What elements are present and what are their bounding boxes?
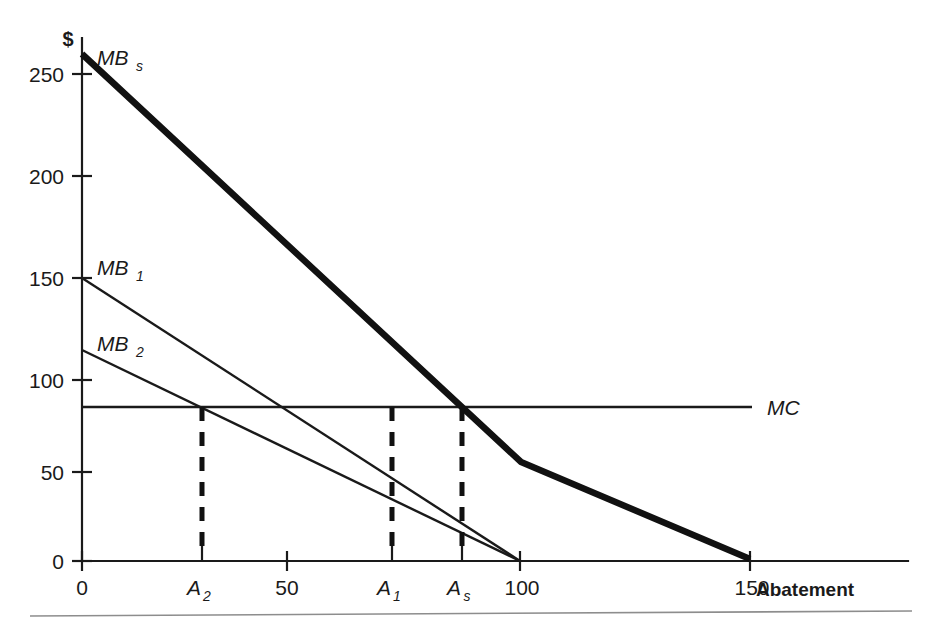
curve-label-mb1: MB [97, 256, 129, 279]
curve-label-mb2: MB [97, 332, 129, 355]
x-tick-label-As-subscript: s [464, 588, 471, 604]
x-tick-label-0: 0 [76, 576, 88, 599]
figure-container: 250 200 150 100 50 0 $ 0 A 2 50 [0, 0, 930, 628]
x-tick-label-100: 100 [504, 576, 539, 599]
abatement-marginal-benefit-cost-chart: 250 200 150 100 50 0 $ 0 A 2 50 [0, 0, 930, 628]
x-tick-label-As-group: A s [445, 576, 471, 604]
curve-label-mbs-group: MB s [97, 46, 143, 74]
x-tick-label-A2: A [185, 576, 201, 599]
x-tick-label-A2-group: A 2 [185, 576, 211, 604]
x-tick-label-50: 50 [275, 576, 298, 599]
y-tick-label-50: 50 [41, 461, 64, 484]
curve-mbs [82, 54, 750, 559]
x-axis-title: Abatement [756, 579, 855, 600]
dashed-drop-lines [202, 407, 462, 557]
x-axis-tick-labels: 0 A 2 50 A 1 A s 100 150 [76, 576, 769, 604]
curve-label-mb1-group: MB 1 [97, 256, 144, 284]
x-tick-label-A1-subscript: 1 [393, 588, 401, 604]
x-tick-label-A1: A [375, 576, 391, 599]
curve-label-mb2-group: MB 2 [97, 332, 144, 360]
y-tick-label-100: 100 [29, 369, 64, 392]
curve-mb2 [82, 350, 520, 561]
footer-divider [30, 611, 912, 616]
curve-label-mb1-subscript: 1 [136, 268, 144, 284]
curve-label-mb2-subscript: 2 [135, 344, 144, 360]
curve-label-mc: MC [767, 396, 800, 419]
y-tick-label-150: 150 [29, 267, 64, 290]
y-axis-tick-labels: 250 200 150 100 50 0 [29, 63, 64, 573]
y-tick-label-0: 0 [52, 550, 64, 573]
y-axis-title-dollar: $ [62, 28, 73, 50]
x-axis-ticks [82, 546, 750, 571]
x-tick-label-A2-subscript: 2 [202, 588, 211, 604]
x-tick-label-As: A [445, 576, 461, 599]
curve-label-mbs-subscript: s [136, 58, 143, 74]
axes [82, 38, 908, 561]
curve-mb1 [82, 278, 520, 561]
y-tick-label-250: 250 [29, 63, 64, 86]
y-tick-label-200: 200 [29, 165, 64, 188]
curve-label-mbs: MB [97, 46, 129, 69]
x-tick-label-A1-group: A 1 [375, 576, 401, 604]
